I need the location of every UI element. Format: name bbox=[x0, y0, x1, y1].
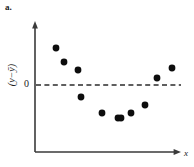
data-point bbox=[61, 59, 68, 66]
residual-plot-figure: a. (y−ȳ) 0 x bbox=[0, 0, 194, 167]
data-point bbox=[118, 115, 125, 122]
data-point bbox=[75, 67, 82, 74]
data-point bbox=[169, 65, 176, 72]
x-axis-label: x bbox=[184, 149, 188, 158]
plot-canvas bbox=[0, 0, 194, 167]
x-axis-arrowhead bbox=[174, 149, 181, 155]
data-point bbox=[78, 94, 85, 101]
y-axis-label: (y−ȳ) bbox=[7, 52, 17, 98]
data-point bbox=[142, 102, 149, 109]
data-point bbox=[154, 75, 161, 82]
data-point bbox=[99, 110, 106, 117]
y-axis-zero-tick-label: 0 bbox=[24, 79, 29, 89]
y-axis-arrowhead bbox=[32, 21, 38, 28]
data-point bbox=[128, 110, 135, 117]
data-point bbox=[53, 45, 60, 52]
